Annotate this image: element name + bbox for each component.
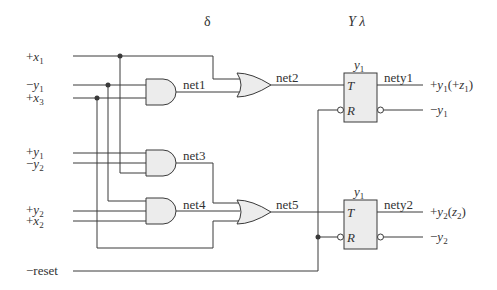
net-label-net2: net2 [276, 71, 298, 84]
ff1-name-label: y1 [354, 58, 364, 74]
junction-x3 [95, 96, 100, 101]
ff2-name-label: y1 [354, 185, 364, 201]
ff2-reset-bubble [338, 234, 344, 240]
output-label-ff2-q: +y2(z2) [430, 205, 466, 221]
wire-reset [73, 110, 337, 271]
junction-reset [316, 235, 321, 240]
output-label-ff1-q: +y1(+z1) [430, 78, 473, 94]
ff1-t-pin: T [347, 79, 354, 92]
output-label-ff1-qn: −y1 [430, 103, 448, 119]
and-gate-1 [146, 79, 176, 105]
wire-x1 [73, 56, 240, 79]
circuit-schematic [0, 0, 497, 290]
input-label-reset: −reset [26, 264, 58, 277]
ff1-reset-bubble [338, 107, 344, 113]
net-label-net3: net3 [183, 149, 205, 162]
net-label-nety1: nety1 [384, 71, 413, 84]
wire-x1-branch [120, 56, 146, 173]
ff2-t-pin: T [347, 206, 354, 219]
ff2-qn-bubble [378, 234, 384, 240]
input-label-x1: +x1 [26, 50, 44, 66]
net-label-net4: net4 [183, 198, 205, 211]
input-label-x3: +x3 [26, 91, 44, 107]
wire-neg-y1-branch [108, 85, 146, 201]
junction-neg-y1 [106, 83, 111, 88]
net-label-nety2: nety2 [384, 198, 413, 211]
delta-header: δ [204, 14, 211, 30]
net-label-net1: net1 [183, 78, 205, 91]
input-label-x2: +x2 [26, 214, 44, 230]
ff1-r-pin: R [347, 104, 355, 117]
net-label-net5: net5 [276, 198, 298, 211]
and-gate-2 [146, 150, 176, 176]
output-label-ff2-qn: −y2 [430, 230, 448, 246]
or-gate-1 [237, 73, 271, 97]
ff1-qn-bubble [378, 107, 384, 113]
and-gate-3 [146, 198, 176, 224]
junction-x1 [118, 54, 123, 59]
y-lambda-header: Y λ [348, 14, 365, 30]
input-label-neg-y2: −y2 [26, 157, 44, 173]
or-gate-2 [237, 200, 271, 224]
ff2-r-pin: R [347, 231, 355, 244]
